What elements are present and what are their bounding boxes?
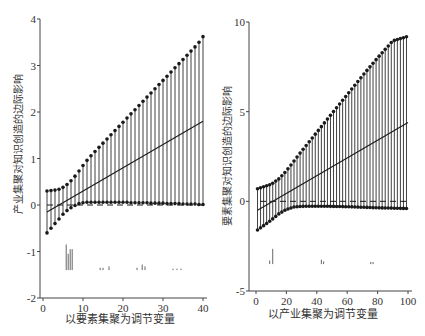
y-tick-label: 10 (234, 16, 246, 28)
right-plot-area (256, 35, 410, 264)
x-tick-label: 40 (198, 302, 210, 314)
right-axes: -50510020406080100 (234, 16, 417, 307)
y-tick-label: 0 (240, 195, 246, 207)
left-x-axis-title: 以要素集聚为调节变量 (65, 312, 175, 326)
y-tick-label: -5 (236, 285, 246, 297)
y-tick-label: -1 (27, 246, 36, 258)
x-tick-label: 80 (372, 295, 384, 307)
x-tick-label: 0 (253, 295, 259, 307)
left-chart-panel: -2-101234010203040 产业集聚对知识创造的边际影响 以要素集聚为… (12, 13, 209, 326)
left-axes: -2-101234010203040 (27, 13, 209, 314)
left-plot-area (45, 35, 205, 270)
right-y-axis-title: 要素集聚对知识创造的边际影响 (221, 86, 233, 226)
x-tick-label: 0 (40, 302, 46, 314)
upper-bound-dots (45, 35, 205, 193)
y-tick-label: 3 (31, 60, 37, 72)
density-histogram (270, 249, 373, 264)
y-tick-label: 4 (31, 13, 37, 25)
left-y-axis-title: 产业集聚对知识创造的边际影响 (12, 74, 24, 214)
x-tick-label: 60 (342, 295, 354, 307)
marginal-effect-line (47, 121, 203, 212)
x-tick-label: 20 (281, 295, 293, 307)
y-tick-label: 2 (31, 106, 37, 118)
right-chart-panel: -50510020406080100 要素集聚对知识创造的边际影响 以产业集聚为… (221, 16, 417, 321)
y-tick-label: 0 (31, 199, 37, 211)
density-histogram (66, 245, 181, 271)
x-tick-label: 100 (400, 295, 417, 307)
x-tick-label: 40 (311, 295, 323, 307)
lower-bound-dots (45, 200, 205, 234)
y-tick-label: 1 (31, 153, 37, 165)
figure: -2-101234010203040 产业集聚对知识创造的边际影响 以要素集聚为… (0, 0, 425, 336)
y-tick-label: -2 (27, 292, 36, 304)
right-x-axis-title: 以产业集聚为调节变量 (268, 307, 378, 321)
y-tick-label: 5 (240, 106, 246, 118)
